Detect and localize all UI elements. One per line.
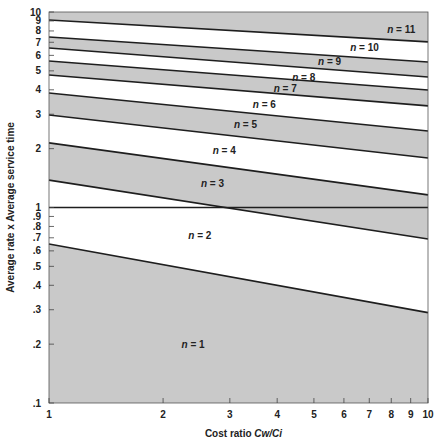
x-tick-label: 2: [160, 409, 166, 420]
region-label: n = 9: [318, 56, 342, 67]
band-3: [49, 143, 428, 239]
y-tick-label: 7: [35, 37, 41, 48]
y-tick-label: .8: [33, 221, 42, 232]
y-tick-label: .1: [33, 398, 42, 409]
y-tick-label: 2: [35, 143, 41, 154]
y-tick-label: .5: [33, 261, 42, 272]
x-tick-label: 9: [408, 409, 414, 420]
y-tick-label: 8: [35, 25, 41, 36]
region-label: n = 3: [201, 178, 225, 189]
x-tick-label: 5: [311, 409, 317, 420]
x-tick-label: 3: [227, 409, 233, 420]
region-label: n = 11: [387, 24, 416, 35]
y-tick-label: 1: [35, 202, 41, 213]
region-label: n = 2: [188, 230, 212, 241]
y-tick-label: .7: [33, 232, 42, 243]
y-tick-label: .4: [33, 280, 42, 291]
band-1: [49, 244, 428, 403]
x-tick-label: 1: [46, 409, 52, 420]
region-label: n = 4: [213, 145, 237, 156]
band-11: [49, 12, 428, 42]
y-tick-label: 5: [35, 65, 41, 76]
x-axis-title: Cost ratio Cw/Ci: [205, 428, 282, 439]
region-label: n = 7: [274, 83, 298, 94]
x-tick-label: 6: [341, 409, 347, 420]
y-tick-label: .6: [33, 245, 42, 256]
region-label: n = 1: [182, 339, 206, 350]
y-tick-label: 6: [35, 50, 41, 61]
region-label: n = 10: [350, 42, 379, 53]
region-label: n = 5: [234, 119, 258, 130]
y-tick-label: .2: [33, 339, 42, 350]
x-tick-label: 10: [422, 409, 434, 420]
region-label: n = 6: [253, 99, 277, 110]
chart: .1.2.3.4.5.6.7.8.912345678910 1234567891…: [0, 0, 438, 440]
y-tick-label: .3: [33, 304, 42, 315]
y-tick-label: 10: [30, 7, 42, 18]
y-tick-label: 3: [35, 109, 41, 120]
y-axis-title: Average rate x Average service time: [5, 122, 16, 293]
x-tick-label: 7: [367, 409, 373, 420]
region-label: n = 8: [292, 72, 316, 83]
x-tick-label: 4: [274, 409, 280, 420]
y-tick-label: 4: [35, 84, 41, 95]
x-tick-label: 8: [388, 409, 394, 420]
